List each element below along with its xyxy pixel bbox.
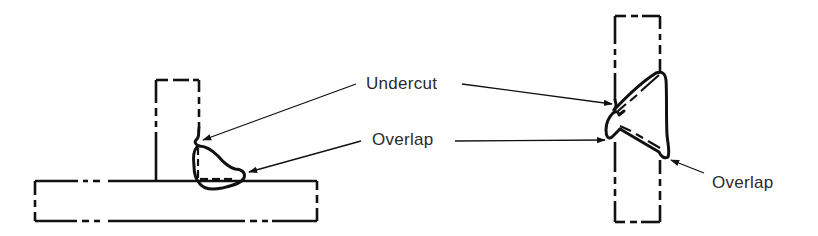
left-overlap-leader [249, 141, 361, 172]
right-butt-joint [455, 16, 704, 222]
undercut-label: Undercut [366, 75, 437, 92]
overlap-right-label: Overlap [712, 174, 774, 191]
overlap-center-label: Overlap [372, 131, 434, 148]
right-undercut-leader [462, 84, 612, 104]
right-upright-plate [615, 16, 660, 222]
left-t-joint [35, 80, 361, 221]
right-overlap-leader [455, 140, 605, 141]
weld-defects-diagram [0, 0, 818, 236]
left-undercut-leader [203, 84, 356, 140]
left-base-plate [35, 181, 317, 221]
left-leaders [203, 84, 361, 172]
right-root-overlap-leader [671, 160, 704, 173]
